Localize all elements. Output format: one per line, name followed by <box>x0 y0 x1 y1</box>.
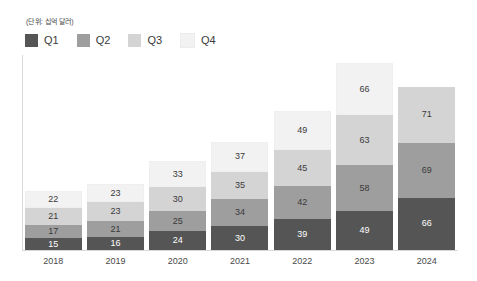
bar-segment-value: 15 <box>48 240 58 249</box>
bar-segment-value: 37 <box>235 152 245 161</box>
bar-segment-2021-q2[interactable]: 34 <box>211 199 268 226</box>
bar-segment-value: 58 <box>360 184 370 193</box>
legend-item-q1[interactable]: Q1 <box>25 34 59 47</box>
bar-segment-value: 23 <box>110 207 120 216</box>
bar-segment-2023-q1[interactable]: 49 <box>336 211 393 250</box>
x-tick-2019: 2019 <box>87 256 144 266</box>
legend-swatch-q1-icon <box>25 34 38 47</box>
x-axis-line <box>22 250 458 251</box>
bar-group-2021[interactable]: 37353430 <box>211 55 268 250</box>
bar-group-2020[interactable]: 33302524 <box>149 55 206 250</box>
bar-segment-2024-q3[interactable]: 71 <box>398 87 455 143</box>
bar-segment-2020-q1[interactable]: 24 <box>149 231 206 250</box>
bar-segment-value: 17 <box>48 227 58 236</box>
x-axis-tick-labels: 2018201920202021202220232024 <box>22 256 458 266</box>
bar-segment-2020-q2[interactable]: 25 <box>149 211 206 231</box>
bar-segment-2018-q3[interactable]: 21 <box>25 208 82 225</box>
bar-group-2024[interactable]: 716966 <box>398 55 455 250</box>
bar-segment-2018-q4[interactable]: 22 <box>25 191 82 208</box>
bar-segment-2020-q3[interactable]: 30 <box>149 187 206 211</box>
x-tick-2018: 2018 <box>25 256 82 266</box>
bar-segment-2019-q2[interactable]: 21 <box>87 221 144 238</box>
bar-segment-2024-q2[interactable]: 69 <box>398 143 455 198</box>
bar-segment-value: 22 <box>48 195 58 204</box>
bar-segment-value: 30 <box>235 234 245 243</box>
bar-segment-value: 71 <box>422 110 432 119</box>
bar-groups: 2221171523232116333025243735343049454239… <box>22 55 458 250</box>
bar-segment-value: 35 <box>235 181 245 190</box>
legend-swatch-q2-icon <box>77 34 90 47</box>
bar-segment-value: 39 <box>297 230 307 239</box>
x-tick-2020: 2020 <box>149 256 206 266</box>
bar-segment-2018-q2[interactable]: 17 <box>25 225 82 238</box>
legend-swatch-q3-icon <box>128 34 141 47</box>
bar-segment-value: 49 <box>297 126 307 135</box>
x-tick-2024: 2024 <box>398 256 455 266</box>
legend-label: Q2 <box>96 35 111 46</box>
x-tick-2021: 2021 <box>211 256 268 266</box>
bar-segment-value: 16 <box>110 239 120 248</box>
bar-segment-value: 33 <box>173 170 183 179</box>
bar-segment-value: 63 <box>360 136 370 145</box>
legend-item-q2[interactable]: Q2 <box>77 34 111 47</box>
bar-segment-2022-q3[interactable]: 45 <box>274 150 331 186</box>
bar-segment-2019-q4[interactable]: 23 <box>87 184 144 202</box>
bar-segment-2022-q4[interactable]: 49 <box>274 111 331 150</box>
legend-label: Q1 <box>44 35 59 46</box>
bar-group-2019[interactable]: 23232116 <box>87 55 144 250</box>
bar-segment-2019-q1[interactable]: 16 <box>87 237 144 250</box>
unit-note: (단위: 십억 달러) <box>26 16 74 26</box>
bar-segment-value: 23 <box>110 189 120 198</box>
bar-segment-2023-q2[interactable]: 58 <box>336 165 393 211</box>
bar-segment-value: 66 <box>360 85 370 94</box>
legend-label: Q4 <box>201 35 216 46</box>
bar-segment-value: 69 <box>422 166 432 175</box>
bar-segment-value: 49 <box>360 226 370 235</box>
bar-group-2022[interactable]: 49454239 <box>274 55 331 250</box>
bar-segment-value: 66 <box>422 219 432 228</box>
bar-group-2018[interactable]: 22211715 <box>25 55 82 250</box>
x-tick-2023: 2023 <box>336 256 393 266</box>
plot-area: 2221171523232116333025243735343049454239… <box>0 55 477 250</box>
legend-item-q3[interactable]: Q3 <box>128 34 162 47</box>
x-tick-2022: 2022 <box>274 256 331 266</box>
bar-segment-2021-q1[interactable]: 30 <box>211 226 268 250</box>
legend-swatch-q4-icon <box>180 33 195 48</box>
stacked-bar-chart: (단위: 십억 달러) Q1Q2Q3Q4 2221171523232116333… <box>0 0 477 281</box>
bar-segment-2021-q3[interactable]: 35 <box>211 172 268 200</box>
bar-segment-2023-q3[interactable]: 63 <box>336 115 393 165</box>
bar-segment-value: 25 <box>173 217 183 226</box>
bar-segment-value: 42 <box>297 198 307 207</box>
bar-segment-2022-q2[interactable]: 42 <box>274 186 331 219</box>
bar-segment-value: 24 <box>173 236 183 245</box>
chart-legend: Q1Q2Q3Q4 <box>25 33 234 48</box>
bar-segment-value: 45 <box>297 164 307 173</box>
legend-label: Q3 <box>147 35 162 46</box>
bar-segment-2021-q4[interactable]: 37 <box>211 142 268 171</box>
bar-group-2023[interactable]: 66635849 <box>336 55 393 250</box>
bar-segment-value: 34 <box>235 208 245 217</box>
bar-segment-value: 21 <box>110 225 120 234</box>
bar-segment-2018-q1[interactable]: 15 <box>25 238 82 250</box>
bar-segment-2024-q1[interactable]: 66 <box>398 198 455 250</box>
bar-segment-2019-q3[interactable]: 23 <box>87 202 144 220</box>
legend-item-q4[interactable]: Q4 <box>180 33 216 48</box>
bar-segment-value: 30 <box>173 195 183 204</box>
bar-segment-value: 21 <box>48 212 58 221</box>
bar-segment-2023-q4[interactable]: 66 <box>336 63 393 115</box>
bar-segment-2020-q4[interactable]: 33 <box>149 161 206 187</box>
bar-segment-2022-q1[interactable]: 39 <box>274 219 331 250</box>
